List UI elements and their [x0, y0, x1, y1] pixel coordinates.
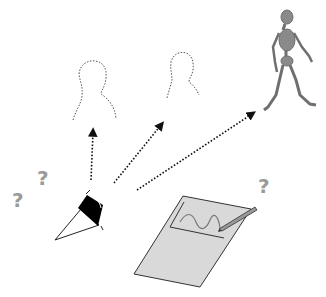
diagram-svg [0, 0, 326, 297]
wearable-sensor [55, 190, 103, 240]
paper-document [134, 196, 257, 287]
question-mark-3: ? [258, 176, 270, 196]
arrow-to-person-1 [91, 132, 93, 180]
question-mark-2: ? [37, 168, 49, 188]
person-silhouette-1 [73, 61, 116, 120]
arrow-to-person-2 [114, 125, 161, 183]
person-silhouette-2 [167, 52, 199, 98]
walking-skeleton-figure [264, 10, 316, 110]
question-mark-1: ? [12, 190, 24, 210]
diagram-canvas: ? ? ? [0, 0, 326, 297]
arrow-to-walker [137, 114, 252, 190]
